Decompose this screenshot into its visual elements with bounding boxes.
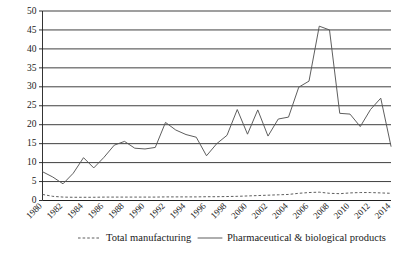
x-tick-label: 1994 — [168, 200, 188, 220]
x-tick-label: 1980 — [24, 200, 44, 220]
y-tick-label: 5 — [32, 176, 37, 186]
y-tick-label: 25 — [27, 100, 37, 110]
line-chart: 05101520253035404550 1980198219841986198… — [0, 0, 404, 254]
x-tick-label: 2000 — [229, 200, 249, 220]
y-tick-label: 15 — [27, 138, 37, 148]
x-tick-label: 2014 — [373, 200, 393, 220]
x-tick-label: 1992 — [147, 201, 167, 221]
x-axis-tick-labels: 1980198219841986198819901992199419961998… — [24, 200, 393, 220]
y-tick-label: 45 — [27, 25, 37, 35]
y-tick-label: 10 — [27, 157, 37, 167]
y-tick-label: 40 — [27, 44, 37, 54]
x-tick-label: 1996 — [188, 200, 208, 220]
x-tick-label: 1986 — [86, 200, 106, 220]
y-axis-tickmarks — [39, 11, 43, 201]
y-tick-label: 50 — [27, 6, 37, 16]
x-tick-label: 1982 — [45, 201, 65, 221]
x-tick-label: 2006 — [291, 200, 311, 220]
x-tick-label: 2010 — [332, 200, 352, 220]
x-tick-label: 2004 — [270, 200, 290, 220]
legend-label-pharmaceutical-biological-products: Pharmaceutical & biological products — [227, 232, 386, 243]
x-tick-label: 2012 — [352, 201, 372, 221]
series-line-pharmaceutical-biological-products — [43, 26, 392, 184]
legend-label-total-manufacturing: Total manufacturing — [106, 232, 192, 243]
y-tick-label: 35 — [27, 63, 37, 73]
y-tick-label: 20 — [27, 119, 37, 129]
x-tick-label: 1988 — [106, 200, 126, 220]
chart-legend: Total manufacturing Pharmaceutical & bio… — [78, 232, 386, 243]
x-tick-label: 2002 — [250, 201, 270, 221]
series-line-total-manufacturing — [43, 192, 392, 197]
y-axis-tick-labels: 05101520253035404550 — [27, 6, 37, 206]
y-tick-label: 30 — [27, 81, 37, 91]
x-tick-label: 2008 — [311, 200, 331, 220]
x-tick-label: 1998 — [209, 200, 229, 220]
x-tick-label: 1990 — [127, 200, 147, 220]
x-tick-label: 1984 — [65, 200, 85, 220]
chart-container: 05101520253035404550 1980198219841986198… — [0, 0, 404, 254]
